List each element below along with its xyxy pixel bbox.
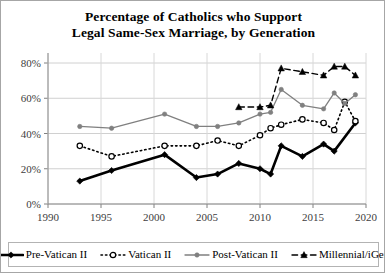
chart-legend: Pre-Vatican IIVatican IIPost-Vatican IIM… — [8, 242, 379, 267]
data-point-marker — [194, 124, 198, 128]
data-point-marker — [300, 103, 304, 107]
series-millennial-igen — [236, 63, 359, 110]
x-tick-label: 1990 — [37, 211, 60, 223]
data-point-marker — [162, 143, 167, 148]
legend-marker-diamond-filled — [0, 249, 24, 261]
data-point-marker — [77, 178, 83, 184]
data-point-marker — [268, 110, 272, 114]
data-point-marker — [332, 91, 336, 95]
legend-item-millennial-igen[interactable]: Millennial/iGen — [291, 249, 385, 261]
legend-items: Pre-Vatican IIVatican IIPost-Vatican IIM… — [9, 243, 378, 266]
x-tick-label: 2015 — [302, 211, 325, 223]
line-chart-plot: 0%20%40%60%80%19901995200020052010201520… — [1, 1, 385, 241]
data-point-marker — [162, 112, 166, 116]
data-point-marker — [237, 121, 241, 125]
data-point-marker — [343, 101, 347, 105]
data-point-marker — [236, 143, 241, 148]
data-point-marker — [267, 102, 273, 108]
series-line — [80, 89, 356, 128]
legend-item-label: Vatican II — [128, 249, 171, 260]
data-point-marker — [78, 124, 82, 128]
data-point-marker — [278, 65, 284, 71]
legend-marker-circle-open — [100, 249, 126, 261]
legend-item-vatican-ii[interactable]: Vatican II — [100, 249, 171, 261]
chart-frame: Percentage of Catholics who Support Lega… — [0, 0, 385, 273]
data-point-marker — [321, 107, 325, 111]
data-point-marker — [195, 252, 199, 256]
y-tick-label: 40% — [21, 128, 41, 140]
legend-item-pre-vatican-ii[interactable]: Pre-Vatican II — [0, 249, 87, 261]
data-point-marker — [268, 126, 273, 131]
x-tick-label: 2020 — [355, 211, 378, 223]
x-tick-label: 2005 — [196, 211, 219, 223]
data-point-marker — [321, 120, 326, 125]
data-point-marker — [353, 118, 358, 123]
data-point-marker — [110, 252, 115, 257]
data-point-marker — [109, 154, 114, 159]
legend-item-post-vatican-ii[interactable]: Post-Vatican II — [184, 249, 278, 261]
series-post-vatican-ii — [78, 87, 358, 130]
data-point-marker — [353, 93, 357, 97]
y-tick-label: 80% — [21, 57, 41, 69]
x-tick-label: 1995 — [90, 211, 113, 223]
legend-item-label: Pre-Vatican II — [26, 249, 87, 260]
data-point-marker — [77, 143, 82, 148]
data-point-marker — [257, 133, 262, 138]
y-tick-label: 60% — [21, 92, 41, 104]
series-pre-vatican-ii — [77, 120, 359, 184]
y-tick-label: 20% — [21, 163, 41, 175]
legend-marker-circle-filled — [184, 249, 210, 261]
data-point-marker — [8, 251, 14, 257]
data-point-marker — [332, 127, 337, 132]
data-point-marker — [299, 68, 305, 74]
data-point-marker — [194, 143, 199, 148]
data-point-marker — [109, 126, 113, 130]
x-tick-label: 2010 — [249, 211, 272, 223]
legend-item-label: Post-Vatican II — [212, 249, 278, 260]
y-tick-label: 0% — [26, 198, 41, 210]
data-point-marker — [258, 112, 262, 116]
legend-item-label: Millennial/iGen — [319, 249, 385, 260]
legend-marker-triangle-filled — [291, 249, 317, 261]
data-point-marker — [215, 138, 220, 143]
data-point-marker — [215, 124, 219, 128]
data-point-marker — [279, 122, 284, 127]
data-point-marker — [279, 87, 283, 91]
data-point-marker — [300, 117, 305, 122]
x-tick-label: 2000 — [143, 211, 166, 223]
